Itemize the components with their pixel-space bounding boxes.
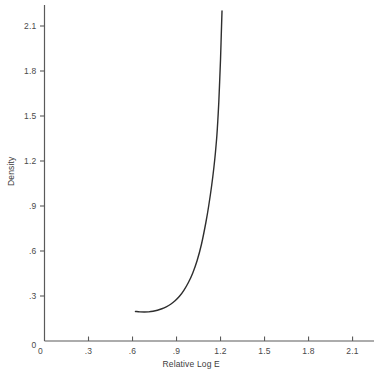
y-axis-title: Density bbox=[6, 164, 16, 186]
x-tick-label: 1.2 bbox=[214, 346, 226, 356]
chart-canvas bbox=[0, 0, 382, 372]
x-tick-label: 1.8 bbox=[302, 346, 314, 356]
y-tick-label: .3 bbox=[0, 291, 37, 301]
x-tick-label: 1.5 bbox=[258, 346, 270, 356]
y-tick-label: 1.8 bbox=[0, 66, 37, 76]
x-axis-title: Relative Log E bbox=[162, 359, 219, 369]
y-axis-ticks bbox=[40, 26, 45, 296]
y-tick-label: 1.5 bbox=[0, 111, 37, 121]
data-curve bbox=[135, 11, 222, 312]
axis-lines bbox=[45, 5, 375, 341]
y-tick-label: .9 bbox=[0, 201, 37, 211]
x-tick-label: 0 bbox=[38, 346, 43, 356]
data-series-group bbox=[135, 11, 222, 312]
x-tick-label: .9 bbox=[173, 346, 181, 356]
x-axis-ticks bbox=[89, 337, 353, 342]
x-tick-label: 2.1 bbox=[346, 346, 358, 356]
x-tick-label: .6 bbox=[129, 346, 137, 356]
chart-figure: 0.3.6.91.21.51.82.1 0.3.6.91.21.51.82.1 … bbox=[0, 0, 382, 372]
y-tick-label: 0 bbox=[0, 340, 37, 350]
y-tick-label: 2.1 bbox=[0, 21, 37, 31]
x-tick-label: .3 bbox=[85, 346, 93, 356]
y-tick-label: .6 bbox=[0, 246, 37, 256]
